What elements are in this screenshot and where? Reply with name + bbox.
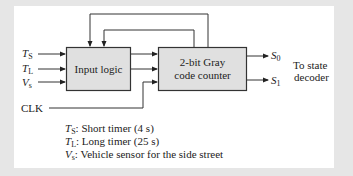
output-note-line2: decoder	[294, 72, 329, 83]
output-s1-label: S1	[271, 75, 281, 88]
counter-label-line2: code counter	[158, 69, 247, 82]
legend-item-vs: Vs: Vehicle sensor for the side street	[65, 149, 223, 162]
input-ts-label: TS	[22, 48, 33, 61]
clk-label: CLK	[21, 103, 43, 114]
input-tl-label: TL	[22, 63, 33, 76]
output-s0-label: S0	[271, 50, 281, 63]
output-note-line1: To state	[293, 60, 327, 71]
input-vs-label: Vs	[22, 77, 32, 90]
input-logic-label: Input logic	[66, 63, 131, 76]
counter-label-line1: 2-bit Gray	[158, 56, 247, 69]
